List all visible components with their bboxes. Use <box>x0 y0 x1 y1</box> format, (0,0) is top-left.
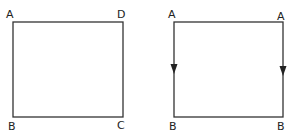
down-arrow-icon-right-edge <box>280 66 287 76</box>
label-left-bottom-left: B <box>8 120 16 133</box>
label-left-top-left: A <box>6 8 14 21</box>
right-square-outline <box>174 22 283 117</box>
label-right-bottom-left: B <box>169 120 177 133</box>
label-right-bottom-right: B <box>277 120 285 133</box>
left-square-outline <box>13 22 123 117</box>
label-right-top-left: A <box>168 8 176 21</box>
right-square: A A B B <box>168 8 287 133</box>
label-right-top-right: A <box>277 10 285 23</box>
label-left-bottom-right: C <box>117 119 125 132</box>
diagram-canvas: A D B C A A B B <box>0 0 295 139</box>
down-arrow-icon-left-edge <box>171 64 178 74</box>
label-left-top-right: D <box>117 8 125 21</box>
left-square: A D B C <box>6 8 125 133</box>
